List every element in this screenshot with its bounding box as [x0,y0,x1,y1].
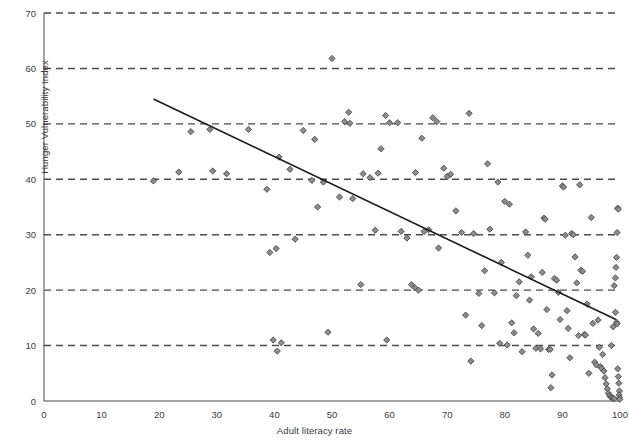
data-point [613,264,619,270]
data-point [548,385,554,391]
data-point [588,214,594,220]
data-point [292,236,298,242]
scatter-chart: 010203040506070 0102030405060708090100 H… [0,0,629,445]
data-point [482,268,488,274]
x-axis-label: Adult literacy rate [0,425,629,436]
data-point [519,349,525,355]
data-point [504,342,510,348]
data-point [404,235,410,241]
data-point [577,182,583,188]
x-tick-10: 10 [96,409,107,420]
data-point [267,249,273,255]
gridlines [44,13,620,346]
data-point [511,330,517,336]
data-point [516,279,522,285]
data-point [562,232,568,238]
data-point [309,177,315,183]
data-point [287,166,293,172]
data-point [615,374,621,380]
data-point [459,229,465,235]
plot-svg: 010203040506070 0102030405060708090100 [0,0,629,445]
data-point [395,120,401,126]
data-point [441,165,447,171]
data-point [557,316,563,322]
data-point [615,366,621,372]
data-point [315,204,321,210]
data-point [346,109,352,115]
data-point [223,171,229,177]
data-point [574,280,580,286]
x-tick-80: 80 [500,409,511,420]
x-tick-100: 100 [612,409,628,420]
data-point [471,231,477,237]
y-tick-40: 40 [25,174,36,185]
y-tick-30: 30 [25,229,36,240]
data-point [616,380,622,386]
data-point [513,293,519,299]
data-point [539,269,545,275]
x-tick-20: 20 [154,409,165,420]
x-tick-90: 90 [557,409,568,420]
data-point [479,323,485,329]
data-point [544,306,550,312]
data-point [572,254,578,260]
data-point [245,126,251,132]
data-point [325,329,331,335]
data-point [336,194,342,200]
x-tick-30: 30 [212,409,223,420]
data-point [476,290,482,296]
data-point [360,171,366,177]
x-tick-0: 0 [41,409,46,420]
data-point [509,320,515,326]
data-point [210,168,216,174]
data-point [612,275,618,281]
data-point [188,129,194,135]
data-points-layer [150,55,622,402]
data-point [611,283,617,289]
axes [44,13,620,401]
y-tick-70: 70 [25,8,36,19]
data-point [526,297,532,303]
data-point [549,372,555,378]
data-point [564,308,570,314]
data-point [378,146,384,152]
x-tick-70: 70 [442,409,453,420]
data-point [535,330,541,336]
y-tick-0: 0 [31,396,36,407]
data-point [382,112,388,118]
data-point [270,337,276,343]
data-point [613,254,619,260]
data-point [531,326,537,332]
y-tick-20: 20 [25,285,36,296]
x-tick-labels: 0102030405060708090100 [41,409,628,420]
data-point [435,245,441,251]
data-point [575,332,581,338]
y-tick-10: 10 [25,340,36,351]
data-point [387,120,393,126]
data-point [312,136,318,142]
data-point [350,196,356,202]
data-point [453,208,459,214]
data-point [468,358,474,364]
data-point [603,381,609,387]
trendline [153,99,616,320]
data-point [274,348,280,354]
data-point [484,161,490,167]
data-point [398,228,404,234]
y-tick-50: 50 [25,118,36,129]
data-point [590,320,596,326]
y-axis-label: Hunger Vulnerability Index [39,27,53,207]
x-tick-60: 60 [384,409,395,420]
x-tick-50: 50 [327,409,338,420]
data-point [595,317,601,323]
data-point [412,170,418,176]
data-point [612,309,618,315]
data-point [567,355,573,361]
data-point [278,340,284,346]
data-point [375,170,381,176]
data-point [273,245,279,251]
x-tick-40: 40 [269,409,280,420]
data-point [463,312,469,318]
data-point [565,325,571,331]
data-point [537,346,543,352]
